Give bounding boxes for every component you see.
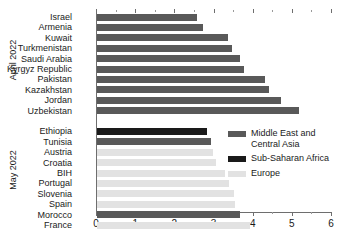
x-tick-top-major — [331, 9, 332, 13]
bar — [97, 24, 203, 31]
bar — [97, 159, 216, 166]
bar — [97, 190, 234, 197]
bar-row: Spain — [96, 199, 331, 209]
bar — [97, 211, 240, 218]
legend-label: Middle East and Central Asia — [251, 128, 348, 150]
legend: Middle East and Central AsiaSub-Saharan … — [228, 128, 348, 183]
legend-entry: Europe — [228, 168, 348, 180]
category-label: Israel — [0, 12, 72, 22]
bar-row: Morocco — [96, 210, 331, 220]
category-label: Croatia — [0, 158, 72, 168]
category-label: Portugal — [0, 178, 72, 188]
legend-swatch — [228, 171, 246, 177]
bar-row: Pakistan — [96, 74, 331, 84]
bar — [97, 201, 235, 208]
bar-chart: April 2022 May 2022 0123456 IsraelArmeni… — [0, 0, 352, 243]
bar — [97, 180, 229, 187]
bar — [97, 14, 197, 21]
bar-row: Kyrgyz Republic — [96, 64, 331, 74]
category-label: Kyrgyz Republic — [0, 64, 72, 74]
bar-row: Israel — [96, 12, 331, 22]
bar-row: Armenia — [96, 22, 331, 32]
bar — [97, 149, 213, 156]
category-label: Spain — [0, 199, 72, 209]
legend-swatch — [228, 131, 246, 137]
category-label: Armenia — [0, 22, 72, 32]
category-label: Kuwait — [0, 33, 72, 43]
category-label: Saudi Arabia — [0, 54, 72, 64]
category-label: Uzbekistan — [0, 106, 72, 116]
bar — [97, 128, 207, 135]
bar-row: Jordan — [96, 95, 331, 105]
category-label: Jordan — [0, 95, 72, 105]
bar-row: Turkmenistan — [96, 43, 331, 53]
bar — [97, 76, 265, 83]
bar — [97, 138, 211, 145]
category-label: Turkmenistan — [0, 43, 72, 53]
category-label: Slovenia — [0, 189, 72, 199]
bar — [97, 34, 228, 41]
bar — [97, 222, 250, 229]
bar-row: Kazakhstan — [96, 85, 331, 95]
category-label: Kazakhstan — [0, 85, 72, 95]
x-tick-major — [331, 212, 332, 216]
legend-label: Sub-Saharan Africa — [251, 153, 348, 164]
bar — [97, 86, 269, 93]
bar-row: France — [96, 220, 331, 230]
legend-label: Europe — [251, 168, 348, 179]
bar — [97, 170, 225, 177]
legend-entry: Middle East and Central Asia — [228, 128, 348, 150]
category-label: BIH — [0, 168, 72, 178]
legend-entry: Sub-Saharan Africa — [228, 153, 348, 165]
category-label: Tunisia — [0, 137, 72, 147]
bar-row: Uzbekistan — [96, 106, 331, 116]
bar — [97, 107, 299, 114]
bar — [97, 55, 240, 62]
legend-swatch — [228, 156, 246, 162]
bar — [97, 45, 232, 52]
category-label: Austria — [0, 147, 72, 157]
bar-row: Slovenia — [96, 189, 331, 199]
bar-row: Saudi Arabia — [96, 54, 331, 64]
bar — [97, 66, 244, 73]
bar — [97, 97, 281, 104]
bar-row: Kuwait — [96, 33, 331, 43]
category-label: Pakistan — [0, 74, 72, 84]
category-label: Ethiopia — [0, 126, 72, 136]
category-label: Morocco — [0, 210, 72, 220]
category-label: France — [0, 220, 72, 230]
